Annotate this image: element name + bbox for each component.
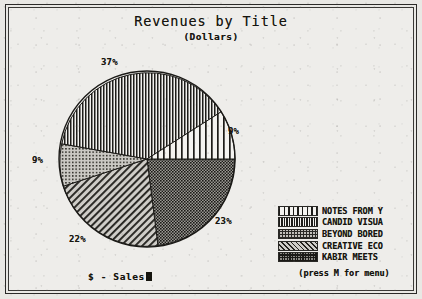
chart-subtitle: (Dollars)	[0, 31, 422, 42]
menu-hint[interactable]: (press M for menu)	[278, 268, 410, 278]
cursor-block-icon	[146, 272, 152, 281]
legend-swatch-icon	[278, 229, 318, 239]
chart-screen: Revenues by Title (Dollars)	[0, 0, 422, 299]
pie-label-22: 22%	[69, 234, 86, 244]
legend-label: CANDID VISUA	[322, 217, 383, 227]
pie-label-9-left: 9%	[32, 155, 43, 165]
pie-svg	[55, 63, 240, 251]
legend-item-kabir-meets: KABIR MEETS	[278, 251, 410, 263]
pie-slice-kabir-meets	[147, 159, 235, 246]
legend-item-creative-eco: CREATIVE ECO	[278, 240, 410, 252]
pie-label-9-right: 9%	[228, 126, 239, 136]
legend-swatch-icon	[278, 252, 318, 262]
legend: NOTES FROM Y CANDID VISUA BEYOND BORED C…	[278, 205, 410, 263]
legend-label: CREATIVE ECO	[322, 241, 383, 251]
pie-label-23: 23%	[215, 216, 232, 226]
pie-label-37: 37%	[101, 57, 118, 67]
sales-status-label: $ - Sales	[0, 271, 240, 282]
legend-label: KABIR MEETS	[322, 252, 378, 262]
legend-label: BEYOND BORED	[322, 229, 383, 239]
chart-title: Revenues by Title	[0, 13, 422, 29]
pie-chart	[55, 63, 240, 251]
legend-label: NOTES FROM Y	[322, 206, 383, 216]
sales-status-text: $ - Sales	[88, 271, 145, 282]
legend-swatch-icon	[278, 206, 318, 216]
legend-swatch-icon	[278, 217, 318, 227]
legend-item-candid-visua: CANDID VISUA	[278, 217, 410, 229]
legend-swatch-icon	[278, 241, 318, 251]
legend-item-notes-from-y: NOTES FROM Y	[278, 205, 410, 217]
legend-item-beyond-bored: BEYOND BORED	[278, 228, 410, 240]
